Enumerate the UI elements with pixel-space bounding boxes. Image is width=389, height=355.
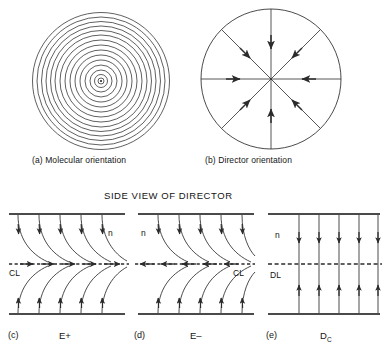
- director-curve: [39, 266, 69, 313]
- panel-tag-e: (e): [266, 330, 277, 340]
- arrow-group-upper: [299, 232, 378, 243]
- side-view-d-diagram: [134, 212, 256, 317]
- panel-a-molecular-orientation: [28, 8, 176, 154]
- spoke-group: [201, 9, 341, 149]
- director-curve: [18, 266, 48, 313]
- director-curve: [242, 215, 255, 256]
- curve-group-upper: [18, 215, 127, 262]
- panel-tag-c: (c): [8, 330, 19, 340]
- spoke-arrow-nw: [240, 48, 250, 58]
- director-curve: [60, 266, 90, 313]
- director-curve: [221, 215, 251, 262]
- director-curve: [39, 215, 69, 262]
- panel-tag-d: (d): [134, 330, 145, 340]
- arrow-group-lower: [158, 298, 242, 308]
- disclination-line-label-e: DL: [270, 270, 281, 280]
- curve-group-lower: [18, 266, 127, 313]
- arrow-group-upper: [18, 224, 102, 234]
- panel-e-straight-vertical: [266, 212, 384, 317]
- curve-group-upper: [158, 215, 255, 262]
- center-line-label-c: CL: [9, 268, 20, 278]
- director-curve: [179, 266, 209, 313]
- arrow-group-upper: [158, 224, 242, 234]
- director-curve: [242, 272, 255, 313]
- section-title-side-view: SIDE VIEW OF DIRECTOR: [104, 190, 233, 201]
- director-curve: [102, 267, 127, 313]
- director-curve: [158, 215, 188, 262]
- director-axis-label-d: n: [141, 228, 146, 238]
- director-curve: [158, 266, 188, 313]
- panel-d-splay-left: [134, 212, 256, 317]
- director-axis-label-e: n: [275, 230, 280, 240]
- radial-spokes-diagram: [199, 8, 345, 152]
- director-curve: [102, 215, 127, 261]
- center-dot: [100, 80, 102, 82]
- panel-label-e: DC: [320, 330, 332, 343]
- panel-label-e-base: D: [320, 330, 327, 341]
- director-curve: [200, 266, 230, 313]
- arrow-group-lower: [299, 285, 378, 296]
- panel-label-c: E+: [59, 330, 71, 341]
- director-curve: [60, 215, 90, 262]
- figure-root: (a) Molecular orientation: [0, 0, 389, 355]
- director-curve: [179, 215, 209, 262]
- concentric-circles-diagram: [28, 8, 176, 154]
- panel-b-director-orientation: [199, 8, 345, 152]
- spoke-arrow-ne: [292, 48, 302, 58]
- director-axis-label-c: n: [108, 228, 113, 238]
- director-curve: [18, 215, 48, 262]
- arrow-group-lower: [18, 298, 102, 308]
- caption-panel-a: (a) Molecular orientation: [32, 155, 126, 165]
- spoke-arrow-sw: [240, 100, 250, 110]
- panel-label-d: E–: [190, 330, 202, 341]
- panel-label-e-subscript: C: [327, 336, 332, 343]
- side-view-e-diagram: [266, 212, 384, 317]
- center-line-label-d: CL: [233, 268, 244, 278]
- spoke-arrow-se: [292, 100, 302, 110]
- director-curve: [200, 215, 230, 262]
- caption-panel-b: (b) Director orientation: [205, 155, 292, 165]
